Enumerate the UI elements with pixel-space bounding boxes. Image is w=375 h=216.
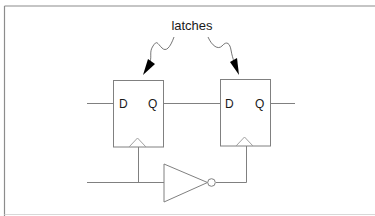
latch-1: D Q <box>114 81 164 148</box>
latch-circuit-diagram: latches D Q D Q <box>0 0 375 216</box>
wires <box>87 104 295 183</box>
latch-2-q-label: Q <box>255 97 264 111</box>
latch-1-q-label: Q <box>148 97 157 111</box>
inverter-bubble-icon <box>208 179 216 187</box>
latch-2-d-label: D <box>225 97 234 111</box>
inverter <box>164 164 215 202</box>
clock-triangle-icon <box>236 137 253 146</box>
latch-2: D Q <box>221 80 271 147</box>
figure-frame <box>5 6 375 216</box>
clock-triangle-icon <box>129 138 146 147</box>
inverter-triangle-icon <box>164 164 208 202</box>
arrow-to-latch-2 <box>208 37 239 75</box>
latch-1-d-label: D <box>119 97 128 111</box>
latches-label: latches <box>171 18 213 33</box>
arrow-to-latch-1 <box>143 37 174 75</box>
